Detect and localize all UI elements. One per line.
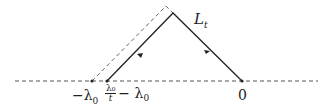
contour-label: Lt: [194, 12, 208, 30]
label-minus-lambda0: −λ0: [72, 88, 98, 106]
dashed-contour: [92, 6, 173, 81]
arrow-down-icon: [204, 50, 210, 54]
solid-contour-Lt: [107, 13, 242, 81]
contour-graphic: [0, 0, 333, 112]
contour-diagram: Lt −λ0 λ₀t− λ0 0: [0, 0, 333, 112]
point-origin: [240, 79, 243, 82]
label-lambda0-over-t-minus-lambda0: λ₀t− λ0: [103, 84, 149, 103]
label-origin: 0: [238, 88, 247, 102]
arrow-up-icon: [137, 53, 143, 58]
point-minus-lambda0: [90, 79, 93, 82]
